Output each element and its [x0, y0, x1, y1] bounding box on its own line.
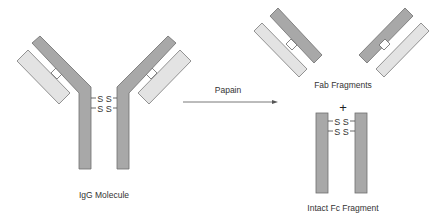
fab-fragment-right: [359, 8, 429, 77]
fc-fragment: S S S S Intact Fc Fragment: [307, 113, 379, 213]
papain-label: Papain: [215, 85, 242, 95]
igg-left-heavy-chain: [32, 36, 91, 169]
fc-right-heavy-chain: [355, 113, 367, 193]
fab-fragment-left: [254, 8, 322, 77]
fc-disulfide-bonds: S S S S: [328, 117, 355, 137]
fab-fragments-label: Fab Fragments: [314, 80, 372, 90]
papain-arrow: Papain: [183, 85, 278, 104]
igg-molecule-label: IgG Molecule: [79, 190, 129, 200]
fc-fragment-label: Intact Fc Fragment: [307, 203, 379, 213]
fc-left-heavy-chain: [316, 113, 328, 193]
arrowhead-icon: [272, 100, 278, 104]
igg-molecule: S S S S IgG Molecule: [17, 36, 191, 200]
igg-ss-bond-2: S S: [97, 104, 112, 114]
fc-ss-bond-2: S S: [334, 127, 349, 137]
papain-digestion-diagram: S S S S IgG Molecule Papain Fab Fragment…: [0, 0, 447, 219]
fc-ss-bond-1: S S: [334, 117, 349, 127]
igg-right-heavy-chain: [117, 36, 176, 169]
igg-ss-bond-1: S S: [97, 94, 112, 104]
plus-sign: +: [339, 100, 347, 115]
igg-disulfide-bonds: S S S S: [91, 94, 117, 114]
